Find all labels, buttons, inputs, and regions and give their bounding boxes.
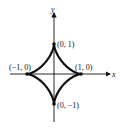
y-axis-label: y [50, 5, 55, 14]
right-point-label: (1, 0) [75, 63, 93, 72]
cusp-point-top [52, 42, 56, 46]
bottom-point-label: (0, −1) [57, 101, 79, 110]
cusp-point-bottom [52, 102, 56, 106]
top-point-label: (0, 1) [57, 40, 75, 49]
left-point-label: (−1, 0) [9, 63, 31, 72]
astroid-diagram: y x (0, 1) (1, 0) (0, −1) (−1, 0) [0, 0, 123, 128]
x-axis-label: x [111, 70, 116, 79]
cusp-point-left [25, 72, 29, 76]
cusp-point-right [79, 72, 83, 76]
